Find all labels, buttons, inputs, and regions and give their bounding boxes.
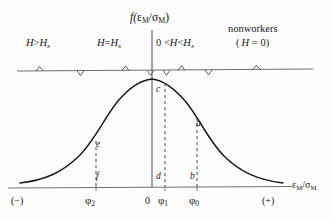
region2-prefix: 0 < <box>156 37 170 48</box>
point-label-d: d <box>156 172 161 182</box>
region3-h: H <box>242 37 250 48</box>
phi1-sub: 1 <box>164 199 168 208</box>
point-label-b: b <box>190 172 195 182</box>
region-label-nonworkers-expr: ( H = 0) <box>236 38 269 49</box>
region-label-nonworkers-title: nonworkers <box>228 24 278 35</box>
x-tick-label-negative: (−) <box>11 196 23 206</box>
point-label-a: a <box>196 119 201 129</box>
phi2-sub: 2 <box>91 199 95 208</box>
y-caption-close: ) <box>165 11 169 23</box>
point-label-c: c <box>156 85 160 95</box>
region2-hx: H <box>183 37 191 48</box>
x-tick-label-phi1: φ1 <box>158 195 168 208</box>
x-tick-label-phi0: φ0 <box>189 195 199 208</box>
region-label-hours-equal: H=Hx <box>97 38 121 50</box>
region-label-hours-partial: 0 <H<Hx <box>156 38 194 50</box>
y-caption-f: f( <box>130 11 137 23</box>
region1-hx: H <box>111 37 119 48</box>
region0-h: H <box>26 37 34 48</box>
region1-h: H <box>97 37 105 48</box>
region0-hx-sub: x <box>47 42 50 50</box>
region0-hx: H <box>40 37 48 48</box>
x-tick-label-phi2: φ2 <box>85 195 95 208</box>
y-axis-caption: f(εM/σM) <box>130 12 169 25</box>
x-caption-sigma-sub: M <box>310 184 316 191</box>
figure-container: f(εM/σM) H>Hx H=Hx 0 <H<Hx nonworkers ( … <box>0 0 331 219</box>
y-caption-epsilon-sub: M <box>142 16 149 25</box>
point-label-e: e <box>96 140 100 150</box>
point-label-f: f <box>96 172 99 182</box>
phi0-sub: 0 <box>195 199 199 208</box>
region2-hx-sub: x <box>191 42 194 50</box>
x-tick-label-positive: (+) <box>262 196 274 206</box>
region3-value: 0 <box>260 37 265 48</box>
x-axis-caption: εM/σM <box>292 180 316 192</box>
region3-relation: = <box>252 37 258 48</box>
density-curve-figure <box>0 0 331 219</box>
region1-hx-sub: x <box>118 42 121 50</box>
region-divider-line <box>17 65 313 76</box>
x-tick-label-zero: 0 <box>145 196 150 206</box>
region-label-hours-greater: H>Hx <box>26 38 50 50</box>
x-axis <box>8 187 292 189</box>
